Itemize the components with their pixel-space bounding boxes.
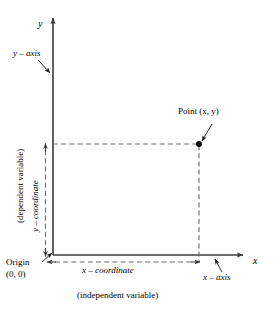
y-axis-variable-label: y [38,18,42,29]
point-callout-label: Point (x, y) [178,106,219,117]
origin-label: Origin [6,257,30,268]
diagram-canvas [0,0,274,309]
y-axis-callout-label: y – axis [13,48,41,59]
y-coordinate-label: y – coordinate [30,180,41,232]
x-axis-variable-label: x [253,255,257,266]
x-coordinate-label: x – coordinate [82,265,134,276]
x-axis-callout-label: x – axis [203,272,231,283]
coordinate-plane-diagram: y x y – axis x – axis Point (x, y) Origi… [0,0,274,309]
plotted-point-marker [196,141,202,147]
point-leader-line [202,124,212,141]
origin-leader-line [42,253,52,262]
y-axis-leader-line [38,60,50,73]
origin-coordinates-label: (0, 0) [6,269,26,280]
independent-variable-label: (independent variable) [77,290,158,301]
dependent-variable-label: (dependent variable) [15,149,26,223]
x-axis-leader-line [215,259,222,272]
